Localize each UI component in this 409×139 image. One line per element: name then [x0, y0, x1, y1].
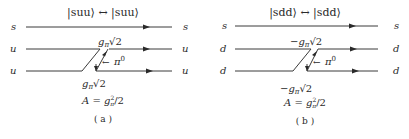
quark-label-s-in: s: [11, 21, 16, 32]
pi0-label: π0: [113, 55, 125, 67]
arrow-icon: [350, 47, 357, 52]
quark-label-d2-out: d: [393, 65, 399, 76]
quark-label-d1-in: d: [220, 43, 226, 54]
vertex-coupling-bottom: −gπ√2: [280, 83, 312, 96]
panel-a-caption: ( a ): [94, 114, 112, 124]
arrow-icon: [312, 51, 317, 57]
arrow-icon: [352, 69, 359, 74]
panel-b: |sdd⟩ ↔ |sdd⟩ s s d d d d ← π0 −gπ√2 −gπ…: [220, 6, 399, 126]
arrow-icon: [143, 25, 150, 30]
arrow-icon: [143, 47, 150, 52]
quark-label-d1-out: d: [393, 43, 399, 54]
vertex-coupling-bottom: gπ√2: [82, 78, 106, 91]
quark-label-s-in: s: [222, 20, 227, 31]
amplitude-formula: A = g2π/2: [81, 94, 124, 107]
vertex-coupling-top: −gπ√2: [290, 36, 322, 49]
quark-label-u2-out: u: [182, 65, 188, 76]
quark-label-u1-in: u: [10, 43, 16, 54]
panel-b-title: |sdd⟩ ↔ |sdd⟩: [269, 6, 341, 20]
amplitude-formula: A = g2π/2: [283, 96, 326, 109]
quark-label-s-out: s: [183, 21, 188, 32]
panel-b-caption: ( b ): [296, 116, 315, 126]
arrow-icon: [102, 51, 107, 57]
vertex-coupling-top: gπ√2: [98, 36, 122, 49]
pi0-label: π0: [324, 55, 336, 67]
quark-label-u1-out: u: [182, 43, 188, 54]
quark-label-s-out: s: [394, 20, 399, 31]
feynman-diagrams: |suu⟩ ↔ |suu⟩ s s u u u u ← π0 gπ√2 gπ√2…: [0, 0, 409, 139]
quark-label-d2-in: d: [220, 65, 226, 76]
pi0-arrow: ←: [102, 57, 110, 67]
arrow-icon: [146, 69, 153, 74]
quark-label-u2-in: u: [10, 65, 16, 76]
arrow-icon: [349, 24, 356, 29]
panel-a: |suu⟩ ↔ |suu⟩ s s u u u u ← π0 gπ√2 gπ√2…: [10, 6, 188, 124]
pi0-arrow: ←: [313, 57, 321, 67]
panel-a-title: |suu⟩ ↔ |suu⟩: [67, 6, 139, 20]
